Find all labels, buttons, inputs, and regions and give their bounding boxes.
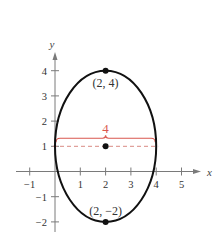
y-axis-arrow (53, 52, 58, 60)
minor-axis-brace (56, 135, 155, 142)
y-tick-label: −1 (36, 192, 47, 203)
center-point (103, 143, 109, 149)
x-tick-label: 3 (128, 179, 133, 190)
bottom-vertex-point (103, 219, 109, 225)
y-tick-label: 3 (42, 91, 47, 102)
y-tick-label: 4 (42, 66, 48, 77)
axes: xy−1123454321−1−2 (16, 38, 212, 232)
y-tick-label: 2 (42, 116, 47, 127)
minor-axis-length-label: 4 (102, 121, 109, 136)
x-tick-label: 2 (103, 179, 108, 190)
x-tick-label: 1 (78, 179, 83, 190)
x-tick-label: 4 (154, 179, 160, 190)
x-axis-label: x (206, 166, 212, 178)
x-axis-arrow (193, 169, 201, 174)
y-axis-label: y (49, 38, 55, 50)
minor-axis-brace-group: 4 (56, 121, 155, 142)
x-tick-label: −1 (24, 179, 35, 190)
x-tick-label: 5 (179, 179, 184, 190)
y-tick-label: 1 (42, 141, 47, 152)
bottom-vertex-label: (2, −2) (89, 204, 122, 218)
y-tick-label: −2 (36, 217, 47, 228)
top-vertex-label: (2, 4) (93, 76, 119, 90)
top-vertex-point (103, 68, 109, 74)
ellipse-diagram: xy−1123454321−1−2 4 (2, 4)(2, −2) (0, 0, 217, 232)
